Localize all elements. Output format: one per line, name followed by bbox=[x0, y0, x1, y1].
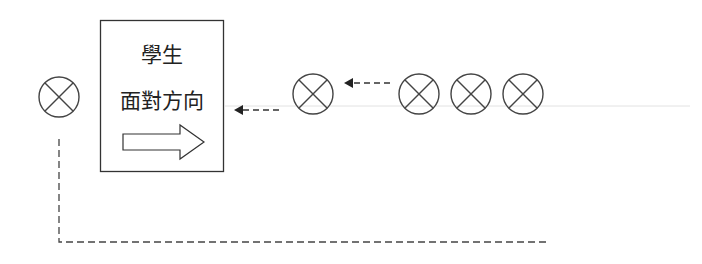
circled-x-icon bbox=[39, 77, 79, 117]
dashed-left-arrow-icon bbox=[344, 78, 390, 88]
diagram-canvas bbox=[0, 0, 702, 264]
circled-x-icon bbox=[451, 74, 491, 114]
circled-x-icon bbox=[503, 74, 543, 114]
circled-x-icon bbox=[399, 74, 439, 114]
hollow-right-arrow-icon bbox=[123, 125, 204, 159]
box-label-line2: 面對方向 bbox=[100, 88, 223, 114]
circled-x-icon bbox=[293, 74, 333, 114]
box-label-line1: 學生 bbox=[100, 42, 223, 68]
dashed-path-line bbox=[59, 139, 550, 242]
